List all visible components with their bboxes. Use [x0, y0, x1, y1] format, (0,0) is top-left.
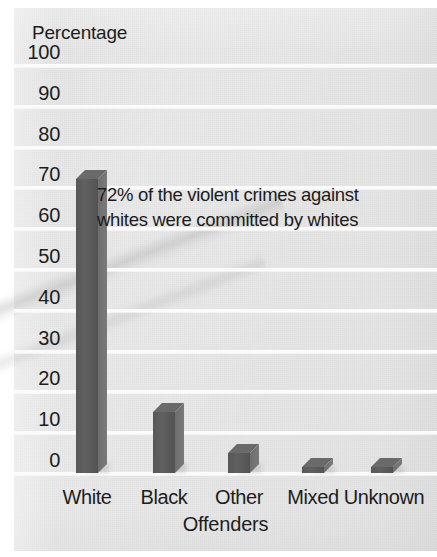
bar-front-face	[302, 467, 324, 473]
x-axis-title: Offenders	[14, 513, 437, 536]
chart-annotation: 72% of the violent crimes against whites…	[97, 182, 427, 232]
bar-side-face	[175, 403, 184, 473]
y-tick-label-60: 60	[14, 204, 60, 227]
x-tick-label-unknown: Unknown	[332, 486, 436, 509]
bar-mixed	[302, 458, 333, 473]
y-tick-label-0: 0	[14, 449, 60, 472]
bar-front-face	[76, 179, 98, 473]
scan-crease-artifact-secondary	[0, 253, 268, 379]
bar-chart-figure: Percentage 1009080706050403020100 72% of…	[0, 0, 437, 557]
y-tick-label-40: 40	[14, 286, 60, 309]
y-tick-label-10: 10	[14, 408, 60, 431]
gridline-90	[14, 105, 437, 108]
bar-front-face	[228, 453, 250, 473]
bar-other	[228, 444, 259, 473]
gridline-100	[14, 64, 437, 67]
bar-front-face	[153, 412, 175, 473]
y-tick-label-70: 70	[14, 163, 60, 186]
y-tick-label-80: 80	[14, 123, 60, 146]
y-tick-label-30: 30	[14, 327, 60, 350]
bar-unknown	[371, 458, 402, 473]
annotation-line-2: whites were committed by whites	[97, 207, 427, 232]
y-tick-label-90: 90	[14, 82, 60, 105]
bar-black	[153, 403, 184, 473]
plot-area: Percentage 1009080706050403020100 72% of…	[14, 8, 437, 551]
bar-front-face	[371, 467, 393, 473]
y-tick-label-20: 20	[14, 367, 60, 390]
y-tick-label-50: 50	[14, 245, 60, 268]
y-tick-label-100: 100	[14, 41, 60, 64]
annotation-line-1: 72% of the violent crimes against	[97, 182, 427, 207]
gridline-80	[14, 146, 437, 149]
